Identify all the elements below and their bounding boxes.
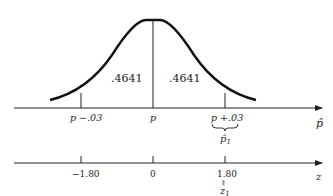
phat1-label: p̂1 (220, 133, 231, 146)
z1-label: z1 (219, 185, 230, 196)
area-right-label: .4641 (169, 72, 201, 85)
z-axis-variable: z (315, 171, 322, 182)
z-tick-left-label: −1.80 (72, 169, 100, 179)
phat-axis-variable: p̂ (316, 117, 323, 130)
z-tick-right-label: 1.80 (217, 169, 237, 179)
brace (212, 124, 238, 131)
z-tick-center-label: 0 (150, 169, 156, 179)
normal-curve-diagram: .4641 .4641 p −.03 p p +.03 p̂ p̂1 −1.80… (0, 0, 333, 196)
area-left-label: .4641 (111, 72, 143, 85)
phat-tick-center: p (150, 112, 156, 123)
phat-tick-left: p −.03 (70, 112, 102, 123)
phat-tick-right: p +.03 (211, 112, 243, 123)
